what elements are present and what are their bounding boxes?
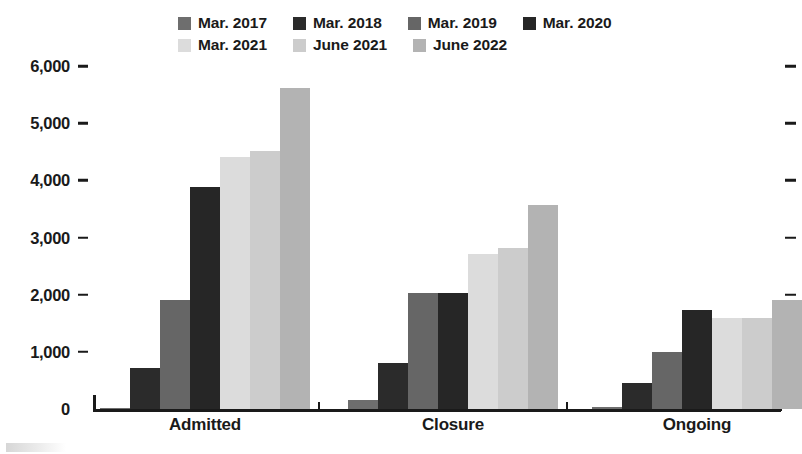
bar bbox=[528, 205, 558, 409]
y-axis-tick-label: 3,000 bbox=[8, 229, 70, 246]
bar bbox=[468, 254, 498, 409]
bar bbox=[498, 248, 528, 409]
bar bbox=[712, 318, 742, 409]
x-axis-group-separator-tick bbox=[318, 402, 320, 410]
bar bbox=[280, 88, 310, 409]
bar bbox=[378, 363, 408, 409]
y-axis-tick-mark bbox=[78, 236, 88, 239]
y-axis-tick-mark bbox=[78, 293, 88, 296]
x-axis-category-label: Admitted bbox=[100, 416, 310, 433]
bar bbox=[742, 318, 772, 409]
bar bbox=[682, 310, 712, 409]
page-artifact bbox=[6, 443, 66, 452]
y-axis-tick-label: 0 bbox=[8, 401, 70, 418]
bar-group: Ongoing bbox=[592, 64, 802, 409]
bar bbox=[130, 368, 160, 409]
y-axis-tick-label: 2,000 bbox=[8, 286, 70, 303]
bar-group: Admitted bbox=[100, 64, 310, 409]
bar bbox=[250, 151, 280, 409]
y-axis-tick-mark bbox=[78, 351, 88, 354]
bar-group: Closure bbox=[348, 64, 558, 409]
bar bbox=[592, 407, 622, 409]
x-axis-line bbox=[93, 409, 781, 412]
y-axis-tick-label: 6,000 bbox=[8, 58, 70, 75]
bar bbox=[622, 383, 652, 409]
y-axis-tick-mark bbox=[78, 65, 88, 68]
x-axis-group-separator-tick bbox=[566, 402, 568, 410]
y-axis-tick-label: 1,000 bbox=[8, 344, 70, 361]
bar bbox=[160, 300, 190, 409]
bar bbox=[100, 408, 130, 409]
bar bbox=[348, 400, 378, 409]
bar bbox=[220, 157, 250, 409]
y-axis-tick-mark bbox=[78, 179, 88, 182]
x-axis-category-label: Ongoing bbox=[592, 416, 802, 433]
y-axis-tick-label: 4,000 bbox=[8, 172, 70, 189]
bar bbox=[652, 352, 682, 409]
bar bbox=[772, 300, 802, 409]
x-axis-category-label: Closure bbox=[348, 416, 558, 433]
bar bbox=[438, 293, 468, 409]
y-axis-tick-mark bbox=[78, 122, 88, 125]
y-axis-tick-label: 5,000 bbox=[8, 115, 70, 132]
bar bbox=[190, 187, 220, 409]
bar bbox=[408, 293, 438, 409]
